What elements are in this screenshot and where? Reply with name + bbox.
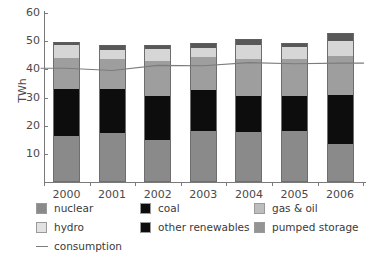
y-tick-label: 50 [14,34,40,47]
bar-2003 [190,0,217,182]
bar-segment-coal [144,96,171,128]
stacked-bar-chart: TWh 102030405060 20002001200220032004200… [0,0,372,262]
bar-segment-other-renewables [144,128,171,140]
bar-segment-pumped-storage [327,33,354,41]
bar-segment-hydro [190,48,217,56]
legend-item-coal[interactable]: coal [140,202,180,214]
bar-segment-gas-oil [281,59,308,96]
chart-legend: nuclearcoalgas & oilhydroother renewable… [36,202,372,260]
legend-label: hydro [54,221,84,233]
legend-item-other-renewables[interactable]: other renewables [140,221,250,233]
x-tick [44,182,45,186]
bar-segment-pumped-storage [53,42,80,45]
bar-2000 [53,0,80,182]
bar-segment-nuclear [144,140,171,182]
y-tick-label: 40 [14,62,40,75]
bar-segment-pumped-storage [99,45,126,49]
bar-2001 [99,0,126,182]
legend-swatch [36,203,47,214]
x-tick [272,182,273,186]
y-tick [44,126,48,127]
bar-segment-nuclear [327,144,354,182]
bar-segment-other-renewables [327,126,354,144]
x-tick-label: 2002 [135,188,181,201]
x-tick [135,182,136,186]
legend-swatch [140,203,151,214]
y-tick [44,98,48,99]
legend-label: coal [158,202,180,214]
bar-segment-nuclear [235,132,262,182]
legend-label: gas & oil [272,202,318,214]
x-tick [318,182,319,186]
bar-2005 [281,0,308,182]
bar-segment-hydro [281,47,308,59]
bar-segment-gas-oil [144,61,171,96]
bar-segment-pumped-storage [281,43,308,47]
legend-label: consumption [54,240,122,252]
x-tick [181,182,182,186]
bar-segment-other-renewables [99,126,126,133]
legend-swatch [254,203,265,214]
y-tick [44,69,48,70]
y-tick-label: 10 [14,147,40,160]
x-tick [226,182,227,186]
bar-segment-hydro [235,45,262,60]
bar-2002 [144,0,171,182]
bar-segment-other-renewables [53,126,80,136]
y-tick [44,13,48,14]
bar-segment-nuclear [190,131,217,182]
bar-segment-nuclear [99,133,126,182]
bar-segment-coal [53,89,80,126]
bar-segment-coal [327,95,354,126]
bar-segment-gas-oil [99,59,126,89]
y-tick [44,41,48,42]
bar-segment-hydro [53,45,80,58]
bar-segment-hydro [327,41,354,55]
legend-item-gas-oil[interactable]: gas & oil [254,202,318,214]
bar-segment-gas-oil [327,56,354,95]
bar-segment-pumped-storage [235,39,262,44]
bar-segment-coal [281,96,308,124]
bar-segment-gas-oil [235,59,262,95]
y-tick [44,154,48,155]
legend-label: nuclear [54,202,93,214]
y-tick-label: 20 [14,119,40,132]
bar-segment-hydro [144,49,171,61]
legend-item-nuclear[interactable]: nuclear [36,202,93,214]
legend-swatch [140,222,151,233]
bar-segment-nuclear [53,136,80,182]
y-tick-label: 60 [14,6,40,19]
legend-label: other renewables [158,221,250,233]
x-tick-label: 2000 [44,188,90,201]
bar-segment-gas-oil [190,57,217,91]
x-tick [90,182,91,186]
bar-segment-hydro [99,50,126,59]
legend-item-consumption[interactable]: consumption [36,240,122,252]
legend-item-hydro[interactable]: hydro [36,221,84,233]
bar-segment-nuclear [281,131,308,182]
legend-label: pumped storage [272,221,359,233]
y-tick-label: 30 [14,91,40,104]
x-tick-label: 2006 [317,188,363,201]
bar-segment-other-renewables [190,125,217,131]
bar-2004 [235,0,262,182]
x-tick-label: 2005 [272,188,318,201]
legend-swatch [254,222,265,233]
bar-segment-coal [99,89,126,126]
bar-2006 [327,0,354,182]
x-tick [363,182,364,186]
bar-segment-gas-oil [53,58,80,89]
bar-segment-coal [235,96,262,126]
x-tick-label: 2003 [180,188,226,201]
bar-segment-other-renewables [281,125,308,131]
bar-segment-pumped-storage [190,43,217,48]
x-tick-label: 2001 [89,188,135,201]
bar-segment-coal [190,90,217,125]
legend-swatch [36,222,47,233]
legend-line-marker [36,246,48,247]
legend-item-pumped-storage[interactable]: pumped storage [254,221,359,233]
bar-segment-other-renewables [235,125,262,132]
x-tick-label: 2004 [226,188,272,201]
bar-segment-pumped-storage [144,45,171,50]
